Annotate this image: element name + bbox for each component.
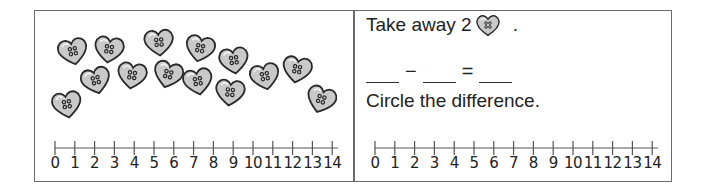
number-line-label: 12: [604, 154, 622, 172]
heart-button-icon: [113, 59, 151, 93]
number-line-label: 10: [564, 154, 582, 172]
heart-buttons-group: [34, 10, 354, 120]
heart-button-icon: [300, 80, 342, 119]
blank-subtrahend[interactable]: [423, 64, 456, 83]
heart-button-icon: [179, 64, 218, 99]
number-line-label: 7: [189, 154, 198, 172]
number-line-label: 4: [450, 154, 459, 172]
heart-button-icon: [141, 27, 177, 60]
subtraction-equation: −=: [366, 60, 512, 83]
minus-sign: −: [405, 60, 417, 83]
number-line-label: 2: [410, 154, 419, 172]
number-line-labels: 01234567891011121314: [370, 154, 660, 174]
number-line-label: 9: [549, 154, 558, 172]
number-line-label: 1: [390, 154, 399, 172]
heart-button-icon: [475, 14, 501, 38]
number-line-label: 4: [130, 154, 139, 172]
number-line-label: 11: [264, 154, 282, 172]
instruction-take-away: Take away 2.: [366, 14, 518, 38]
number-line-label: 3: [110, 154, 119, 172]
instruction-text: Take away 2: [366, 14, 472, 35]
number-line-label: 8: [209, 154, 218, 172]
number-line-right: 01234567891011121314: [370, 138, 660, 178]
number-line-label: 2: [90, 154, 99, 172]
number-line-label: 12: [284, 154, 302, 172]
number-line-labels: 01234567891011121314: [50, 154, 340, 174]
number-line-label: 0: [50, 154, 59, 172]
number-line-label: 14: [323, 154, 341, 172]
blank-difference[interactable]: [479, 64, 512, 83]
equals-sign: =: [462, 60, 474, 83]
number-line-label: 10: [244, 154, 262, 172]
heart-button-icon: [245, 59, 284, 95]
number-line-label: 6: [169, 154, 178, 172]
blank-minuend[interactable]: [366, 64, 399, 83]
instruction-period: .: [513, 14, 518, 35]
number-line-label: 5: [469, 154, 478, 172]
number-line-label: 9: [229, 154, 238, 172]
number-line-label: 11: [584, 154, 602, 172]
number-line-left: 01234567891011121314: [50, 138, 340, 178]
right-panel: Take away 2. −= Circle the difference. 0…: [354, 10, 672, 182]
number-line-label: 6: [489, 154, 498, 172]
number-line-label: 8: [529, 154, 538, 172]
heart-button-icon: [212, 76, 249, 109]
number-line-label: 1: [70, 154, 79, 172]
number-line-label: 0: [370, 154, 379, 172]
heart-button-icon: [48, 87, 87, 122]
heart-button-icon: [180, 31, 219, 67]
number-line-label: 3: [430, 154, 439, 172]
circle-difference-prompt: Circle the difference.: [366, 90, 540, 112]
number-line-label: 13: [623, 154, 641, 172]
heart-button-icon: [53, 34, 92, 70]
number-line-label: 5: [149, 154, 158, 172]
number-line-label: 13: [303, 154, 321, 172]
number-line-label: 14: [643, 154, 661, 172]
number-line-label: 7: [509, 154, 518, 172]
left-panel: 01234567891011121314: [34, 10, 354, 182]
